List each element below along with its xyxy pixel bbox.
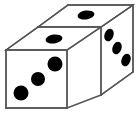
dice-canvas bbox=[0, 0, 140, 118]
front-die-bottom-right-edge bbox=[67, 95, 101, 108]
pip-front-face-2 bbox=[31, 72, 45, 86]
pip-front-face-3 bbox=[14, 86, 29, 101]
pip-front-face-1 bbox=[48, 57, 63, 72]
dice-illustration: Two dice shown in isometric view bbox=[0, 0, 140, 118]
